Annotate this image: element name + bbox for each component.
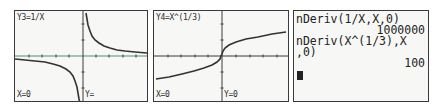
function-label: Y3=1/X (17, 13, 44, 22)
graph-screen-cube-root: Y4=X^(1/3) X=0 Y=0 (153, 10, 289, 102)
entry-2-result: 100 (404, 58, 425, 69)
entry-2-input-line2: ,0) (296, 47, 317, 58)
y-readout: Y= (85, 90, 94, 99)
graph-screen-reciprocal: Y3=1/X X=0 Y= (14, 10, 148, 102)
y-readout: Y=0 (224, 90, 238, 99)
function-label: Y4=X^(1/3) (156, 13, 201, 22)
graph-plot-reciprocal (15, 11, 148, 102)
home-screen: nDeriv(1/X,X,0) 1000000 nDeriv(X^(1/3),X… (293, 10, 429, 102)
x-readout: X=0 (156, 90, 170, 99)
graph-plot-cube-root (154, 11, 289, 102)
x-readout: X=0 (17, 90, 31, 99)
block-cursor-icon[interactable] (297, 71, 303, 80)
